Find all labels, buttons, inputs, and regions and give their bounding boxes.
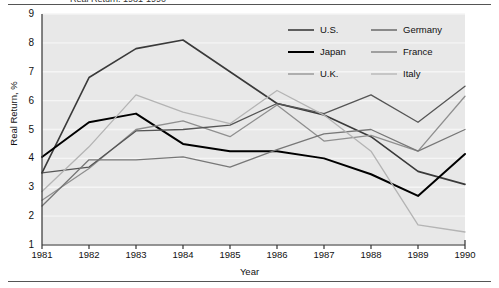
y-tick-5: 5 [12,124,34,135]
legend-label-italy: Italy [403,68,420,79]
x-tick-1983: 1983 [113,249,159,260]
x-tick-1990: 1990 [442,249,488,260]
y-tick-4: 4 [12,152,34,163]
y-tick-6: 6 [12,95,34,106]
legend-label-japan: Japan [320,46,346,57]
y-tick-8: 8 [12,37,34,48]
y-tick-2: 2 [12,210,34,221]
y-tick-9: 9 [12,8,34,19]
plot-canvas [0,0,499,288]
chart-figure: Real Return, 1981-1990 Real Return, % Ye… [0,0,499,288]
x-tick-1981: 1981 [19,249,65,260]
x-tick-1988: 1988 [348,249,394,260]
y-tick-7: 7 [12,66,34,77]
x-tick-1984: 1984 [160,249,206,260]
x-tick-1987: 1987 [301,249,347,260]
x-tick-1986: 1986 [254,249,300,260]
y-tick-3: 3 [12,181,34,192]
x-tick-1989: 1989 [395,249,441,260]
legend-label-germany: Germany [403,24,442,35]
x-tick-1982: 1982 [66,249,112,260]
legend-label-uk: U.K. [320,68,338,79]
y-axis-label: Real Return, % [8,79,19,149]
legend-label-us: U.S. [320,24,338,35]
legend-label-france: France [403,46,433,57]
x-tick-1985: 1985 [207,249,253,260]
x-axis-label: Year [0,266,499,277]
